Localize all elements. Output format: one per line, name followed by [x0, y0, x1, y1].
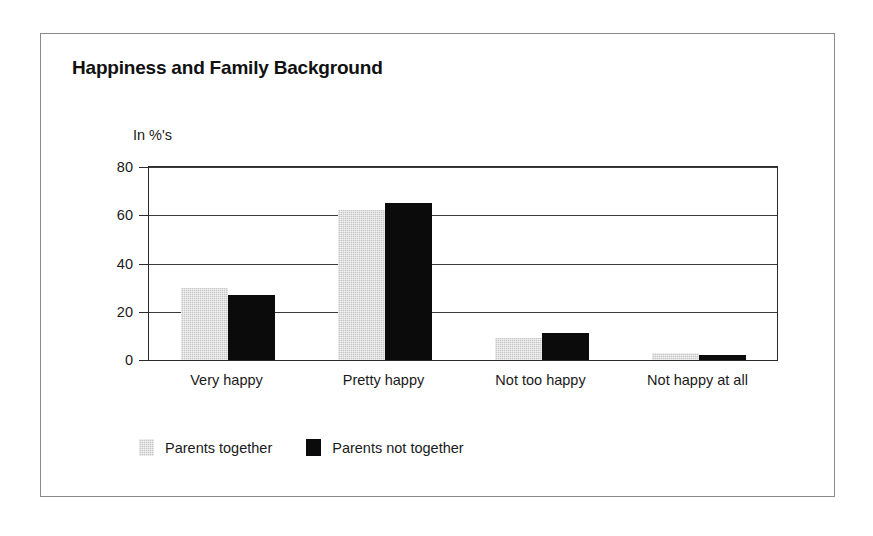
y-axis-tick-mark: [139, 264, 148, 265]
plot-area: 020406080: [148, 166, 778, 361]
chart-title: Happiness and Family Background: [72, 57, 383, 79]
bar: [228, 295, 275, 360]
legend-entry: Parents together: [139, 439, 272, 456]
y-axis-tick-label: 60: [117, 207, 133, 223]
legend-entry: Parents not together: [306, 439, 463, 456]
x-axis-category-label: Very happy: [190, 372, 263, 388]
x-axis-category-label: Pretty happy: [343, 372, 424, 388]
legend-color-swatch: [139, 439, 154, 456]
y-axis-tick-mark: [139, 167, 148, 168]
y-axis-tick-mark: [139, 215, 148, 216]
x-axis-category-labels: Very happyPretty happyNot too happyNot h…: [148, 372, 778, 396]
bar: [652, 353, 699, 360]
y-axis-tick-mark: [139, 360, 148, 361]
legend-label: Parents together: [165, 440, 272, 456]
y-axis-unit-label: In %'s: [133, 127, 172, 143]
bar: [542, 333, 589, 360]
legend-label: Parents not together: [332, 440, 463, 456]
y-axis-tick-label: 0: [125, 352, 133, 368]
x-axis-category-label: Not happy at all: [647, 372, 748, 388]
bar: [699, 355, 746, 360]
x-axis-category-label: Not too happy: [495, 372, 585, 388]
bar: [385, 203, 432, 360]
chart-figure-frame: Happiness and Family Background In %'s 0…: [40, 33, 835, 497]
legend-color-swatch: [306, 439, 321, 456]
y-axis-tick-mark: [139, 312, 148, 313]
y-axis-tick-label: 80: [117, 159, 133, 175]
chart-legend: Parents togetherParents not together: [139, 439, 464, 456]
y-axis-tick-label: 40: [117, 256, 133, 272]
bar: [181, 288, 228, 360]
bars-layer: [149, 167, 777, 360]
bar: [495, 338, 542, 360]
y-axis-tick-label: 20: [117, 304, 133, 320]
bar: [338, 210, 385, 360]
